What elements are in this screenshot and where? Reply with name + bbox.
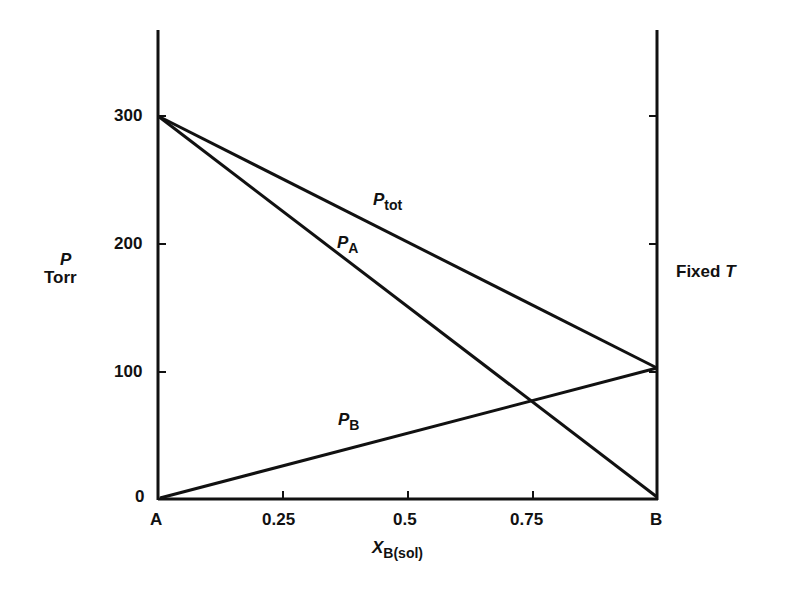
y-tick-200: 200 bbox=[114, 234, 142, 254]
series-pa bbox=[158, 116, 657, 497]
y-tick-0: 0 bbox=[135, 487, 144, 507]
x-tick-b: B bbox=[650, 510, 662, 530]
pa-label: PA bbox=[337, 233, 358, 256]
series-pb bbox=[160, 368, 657, 498]
y-axis-label-unit: Torr bbox=[44, 268, 77, 288]
series-ptot bbox=[158, 116, 657, 368]
y-tick-300: 300 bbox=[114, 106, 142, 126]
y-axis-label-p: P bbox=[60, 250, 71, 270]
x-tick-075: 0.75 bbox=[510, 510, 543, 530]
ptot-label: Ptot bbox=[373, 190, 402, 213]
x-tick-025: 0.25 bbox=[262, 510, 295, 530]
pb-label: PB bbox=[338, 410, 359, 433]
y-tick-100: 100 bbox=[114, 362, 142, 382]
fixed-t-annotation: Fixed T bbox=[676, 262, 736, 282]
x-tick-05: 0.5 bbox=[393, 510, 417, 530]
x-tick-a: A bbox=[150, 510, 162, 530]
x-axis-label: XB(sol) bbox=[372, 538, 423, 561]
